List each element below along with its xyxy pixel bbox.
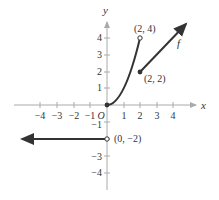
piecewise-function-graph: −4 −3 −2 −1 1 2 3 4 4 3 2 1 −1 −3 −4 O x… xyxy=(0,0,219,200)
svg-text:−3: −3 xyxy=(52,110,63,121)
label-0-neg2: (0, −2) xyxy=(114,133,141,145)
origin-label: O xyxy=(97,110,104,121)
function-label-f: f xyxy=(177,37,182,49)
svg-text:1: 1 xyxy=(97,82,102,93)
label-2-4: (2, 4) xyxy=(134,23,156,35)
svg-text:−4: −4 xyxy=(91,167,102,178)
open-point-0-neg2 xyxy=(105,137,109,141)
svg-text:3: 3 xyxy=(155,110,160,121)
svg-text:−2: −2 xyxy=(69,110,80,121)
svg-text:−4: −4 xyxy=(35,110,46,121)
parabola-piece xyxy=(107,38,140,105)
svg-text:−3: −3 xyxy=(91,151,102,162)
svg-text:3: 3 xyxy=(97,49,102,60)
closed-point-origin xyxy=(105,103,110,108)
svg-text:4: 4 xyxy=(171,110,176,121)
x-axis-label: x xyxy=(200,99,206,111)
svg-text:4: 4 xyxy=(97,32,102,43)
svg-text:2: 2 xyxy=(138,110,143,121)
svg-text:2: 2 xyxy=(97,66,102,77)
svg-text:1: 1 xyxy=(122,110,127,121)
open-point-2-4 xyxy=(138,36,142,40)
y-axis-label: y xyxy=(102,4,108,16)
closed-point-2-2 xyxy=(138,70,143,75)
label-2-2: (2, 2) xyxy=(144,73,166,85)
x-tick-labels: −4 −3 −2 −1 1 2 3 4 xyxy=(35,110,176,121)
